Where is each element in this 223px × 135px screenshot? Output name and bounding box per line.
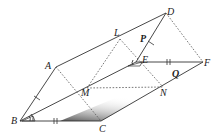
label-M: M xyxy=(80,87,90,98)
label-F: F xyxy=(203,57,211,68)
label-P: P xyxy=(140,33,147,44)
label-Q: Q xyxy=(172,68,179,79)
tick-DE xyxy=(148,41,154,45)
label-N: N xyxy=(159,87,168,98)
edge-CF xyxy=(101,62,203,121)
edge-AB xyxy=(20,67,56,121)
label-L: L xyxy=(113,27,120,38)
edge-MN xyxy=(87,87,163,88)
angle-mark-E-arc xyxy=(132,60,133,65)
label-C: C xyxy=(99,123,106,134)
shaded-region xyxy=(60,94,150,121)
geometry-diagram: A B C D E F L M N P Q xyxy=(0,0,223,135)
label-E: E xyxy=(141,54,148,65)
edge-BE xyxy=(20,62,136,121)
label-B: B xyxy=(11,115,17,126)
label-A: A xyxy=(44,60,52,71)
edge-DF xyxy=(166,13,203,62)
edge-LM xyxy=(87,39,120,88)
label-D: D xyxy=(166,6,175,17)
